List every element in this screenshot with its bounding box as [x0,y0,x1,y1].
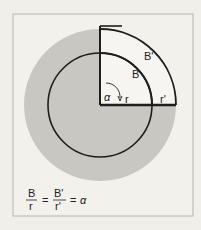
formula-result: α [80,194,87,206]
label-arc-outer: B' [144,50,153,62]
formula-eq1: = [42,194,48,206]
formula-den2: r' [55,200,61,212]
label-radius-outer: r' [160,93,166,105]
formula-den1: r [29,200,33,212]
label-arc-inner: B [132,68,139,80]
label-angle: α [104,91,111,103]
formula-num1: B [28,187,35,199]
formula-num2: B' [54,187,63,199]
formula-eq2: = [70,194,76,206]
label-radius-inner: r [125,93,129,105]
radian-diagram: B' B α r r' B r = B' r' = α [0,0,201,230]
